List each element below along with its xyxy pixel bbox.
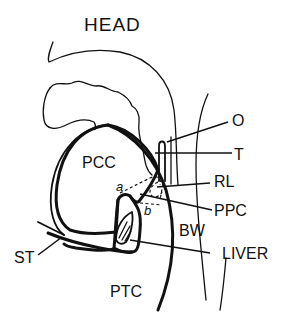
label-liver: LIVER — [222, 245, 268, 262]
label-o: O — [232, 112, 244, 129]
body-wall-inner-line — [196, 94, 208, 300]
liver-outline — [64, 196, 140, 253]
label-b: b — [144, 203, 151, 218]
label-rl: RL — [214, 173, 235, 190]
embryo-diagram: HEAD PCC PTC BW a b O T RL PPC ST LIVER — [0, 0, 281, 325]
liver-hatch — [119, 222, 131, 241]
label-bw: BW — [179, 222, 206, 239]
label-ppc: PPC — [214, 202, 247, 219]
neural-tube-inner — [43, 88, 96, 130]
leader-liver — [130, 240, 210, 253]
trachea-tube — [159, 142, 165, 182]
label-a: a — [116, 179, 123, 194]
leader-st — [38, 237, 62, 255]
body-wall-outer-line — [220, 258, 226, 310]
label-pcc: PCC — [82, 154, 116, 171]
pericardial-cavity-outline — [56, 125, 158, 233]
label-st: ST — [14, 249, 35, 266]
label-ptc: PTC — [110, 283, 142, 300]
label-t: T — [234, 146, 244, 163]
title-head: HEAD — [84, 14, 141, 35]
